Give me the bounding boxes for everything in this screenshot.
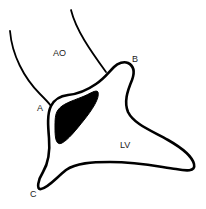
ventricle-diagram [0,0,206,209]
aorta-right-wall [71,10,106,72]
label-a: A [37,104,43,113]
label-ao: AO [53,49,66,58]
label-lv: LV [120,141,130,150]
dark-filled-region [55,91,98,144]
aorta-left-wall [10,31,51,106]
label-c: C [30,190,37,199]
label-b: B [132,55,138,64]
